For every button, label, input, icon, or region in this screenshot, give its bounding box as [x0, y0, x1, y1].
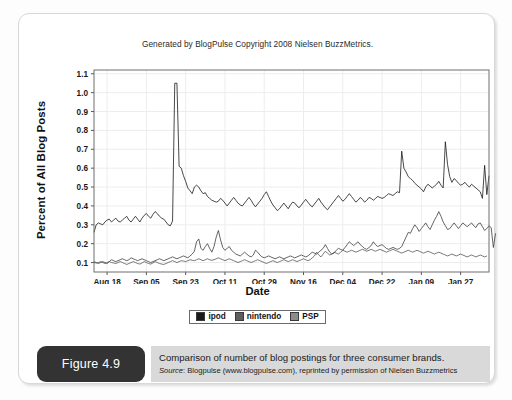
line-chart-plot: 0.10.20.30.40.50.60.70.80.91.01.1 Aug 18… [19, 14, 496, 284]
legend-label-ipod: ipod [208, 312, 225, 321]
svg-text:0.9: 0.9 [77, 108, 89, 117]
series-line-nintendo [94, 212, 496, 264]
svg-text:Dec 04: Dec 04 [330, 278, 357, 284]
chart-area: Generated by BlogPulse Copyright 2008 Ni… [19, 14, 496, 336]
series-lines [94, 83, 496, 264]
figure-caption-strip: Figure 4.9 Comparison of number of blog … [19, 344, 496, 385]
svg-text:0.4: 0.4 [77, 202, 89, 211]
svg-text:0.7: 0.7 [77, 145, 89, 154]
legend-swatch-icon-ipod [196, 312, 205, 321]
svg-text:Oct 11: Oct 11 [213, 278, 238, 284]
svg-text:Aug 18: Aug 18 [93, 278, 121, 284]
svg-text:0.2: 0.2 [77, 240, 89, 249]
x-axis-title: Date [19, 285, 496, 297]
svg-text:0.6: 0.6 [77, 164, 89, 173]
legend-box: ipodnintendoPSP [189, 310, 325, 324]
figure-source-label: Source [159, 366, 183, 375]
figure-number-label: Figure 4.9 [62, 357, 120, 371]
legend-swatch-icon-PSP [290, 312, 299, 321]
svg-text:0.3: 0.3 [77, 221, 89, 230]
svg-text:Nov 16: Nov 16 [290, 278, 317, 284]
y-axis-ticks: 0.10.20.30.40.50.60.70.80.91.01.1 [77, 70, 94, 268]
legend-entry-PSP[interactable]: PSP [290, 312, 318, 321]
figure-source-line: Source: Blogpulse (www.blogpulse.com), r… [159, 365, 484, 376]
x-axis-ticks: Aug 18Sep 05Sep 23Oct 11Oct 29Nov 16Dec … [93, 272, 473, 284]
figure-source-text: : Blogpulse (www.blogpulse.com), reprint… [183, 366, 457, 375]
chart-legend: ipodnintendoPSP [19, 310, 496, 324]
legend-swatch-icon-nintendo [235, 312, 244, 321]
svg-text:Oct 29: Oct 29 [252, 278, 277, 284]
figure-caption-body: Comparison of number of blog postings fo… [151, 346, 490, 382]
figure-number-badge: Figure 4.9 [37, 346, 145, 382]
svg-text:0.8: 0.8 [77, 126, 89, 135]
svg-text:1.1: 1.1 [77, 70, 89, 79]
svg-text:Jan 09: Jan 09 [409, 278, 435, 284]
legend-entry-nintendo[interactable]: nintendo [235, 312, 282, 321]
series-line-ipod [94, 83, 489, 232]
page-background: Generated by BlogPulse Copyright 2008 Ni… [0, 0, 512, 400]
svg-text:Sep 05: Sep 05 [133, 278, 160, 284]
svg-text:Jan 27: Jan 27 [448, 278, 474, 284]
svg-text:Dec 22: Dec 22 [369, 278, 396, 284]
legend-entry-ipod[interactable]: ipod [196, 312, 225, 321]
legend-label-nintendo: nintendo [247, 312, 282, 321]
svg-text:0.1: 0.1 [77, 259, 89, 268]
plot-frame [94, 70, 489, 272]
svg-text:1.0: 1.0 [77, 89, 89, 98]
svg-text:0.5: 0.5 [77, 183, 89, 192]
legend-label-PSP: PSP [302, 312, 318, 321]
gridlines [94, 70, 489, 272]
figure-panel: Generated by BlogPulse Copyright 2008 Ni… [18, 13, 495, 384]
svg-text:Sep 23: Sep 23 [172, 278, 199, 284]
figure-caption-text: Comparison of number of blog postings fo… [159, 351, 484, 364]
